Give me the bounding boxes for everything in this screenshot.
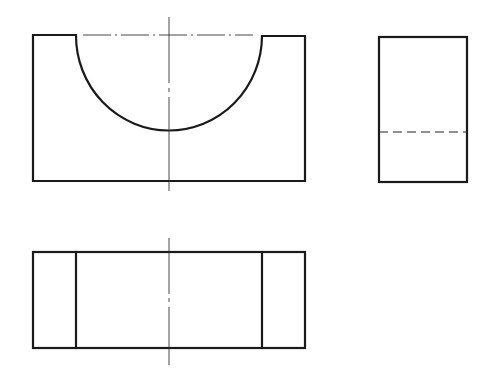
front-view	[33, 17, 305, 191]
side-view-outline	[379, 37, 467, 182]
top-view	[33, 238, 305, 365]
side-view	[379, 37, 467, 182]
orthographic-drawing	[0, 0, 495, 375]
